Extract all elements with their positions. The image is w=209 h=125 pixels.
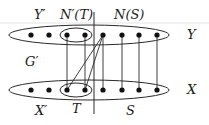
vertex-y3 xyxy=(64,32,69,37)
edges xyxy=(67,35,157,90)
vertex-y4 xyxy=(82,32,87,37)
vertex-y5 xyxy=(100,32,105,37)
vertex-y6 xyxy=(119,32,124,37)
vertex-x5 xyxy=(100,87,105,92)
label-y-prime: Y′ xyxy=(34,7,46,22)
label-x-prime: X′ xyxy=(34,103,47,118)
vertex-x4 xyxy=(82,87,87,92)
label-t: T xyxy=(72,101,82,116)
vertex-x1 xyxy=(28,87,33,92)
vertex-y2 xyxy=(46,32,51,37)
vertex-x8 xyxy=(154,87,159,92)
label-n-s: N(S) xyxy=(113,7,144,22)
vertex-y8 xyxy=(154,32,159,37)
label-x: X xyxy=(186,82,197,97)
label-y: Y xyxy=(187,27,197,42)
vertex-y7 xyxy=(136,32,141,37)
label-s: S xyxy=(126,103,135,118)
vertex-y1 xyxy=(28,32,33,37)
vertex-x7 xyxy=(136,87,141,92)
label-g-prime: G′ xyxy=(25,54,38,69)
vertex-x6 xyxy=(119,87,124,92)
vertex-x2 xyxy=(46,87,51,92)
vertex-x3 xyxy=(64,87,69,92)
label-n-prime-t: N′(T) xyxy=(59,7,93,22)
bipartite-graph-diagram: Y′ N′(T) N(S) Y G′ X X′ T S xyxy=(0,0,209,125)
